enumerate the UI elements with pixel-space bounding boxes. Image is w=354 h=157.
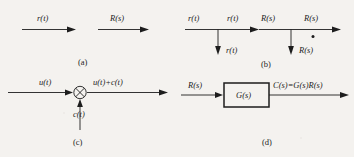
panel-d-label-input: R(s) — [188, 81, 202, 90]
arrowhead-b-right-branch — [288, 46, 294, 55]
panel-c-label-input: u(t) — [39, 78, 51, 87]
panel-c: u(t) u(t)+c(t) c(t) (c) — [0, 78, 177, 157]
panel-b-left-label-input: r(t) — [188, 14, 199, 23]
arrowhead-c-output — [159, 90, 168, 96]
arrowhead-rt — [67, 27, 76, 33]
arrowhead-c-input — [65, 90, 73, 96]
arrowhead-b-left-through — [250, 27, 259, 33]
panel-a-label-rs: R(s) — [110, 14, 124, 23]
panel-b-right-label-input: R(s) — [261, 14, 275, 23]
panel-c-label-summing-input: c(t) — [73, 110, 85, 119]
panel-c-label-output: u(t)+c(t) — [93, 78, 123, 87]
panel-d-label-output: C(s)=G(s)R(s) — [273, 81, 323, 90]
panel-a-label-rt: r(t) — [37, 14, 48, 23]
panel-c-graphics — [0, 78, 177, 157]
panel-a-graphics — [0, 0, 177, 78]
arrowhead-b-left-branch — [215, 46, 221, 55]
arrowhead-c-feedback — [77, 99, 83, 107]
panel-a-caption: (a) — [78, 58, 87, 67]
arrowhead-d-input — [215, 92, 223, 98]
arrowhead-b-right-through — [332, 27, 341, 33]
panel-c-caption: (c) — [73, 138, 82, 147]
panel-b: r(t) r(t) r(t) R(s) R(s) R(s) (b) — [177, 0, 354, 78]
panel-b-caption: (b) — [261, 60, 271, 69]
panel-d-block-label: G(s) — [236, 91, 251, 100]
panel-b-left-label-through: r(t) — [227, 14, 238, 23]
panel-d: R(s) G(s) C(s)=G(s)R(s) (d) — [177, 78, 354, 157]
panel-d-caption: (d) — [262, 138, 272, 147]
block-diagram-figure: r(t) R(s) (a) r(t) r(t) r(t) R(s) R(s) R… — [0, 0, 354, 157]
panel-b-right-label-through: R(s) — [304, 14, 318, 23]
panel-a: r(t) R(s) (a) — [0, 0, 177, 78]
branch-point-dot-icon — [312, 35, 315, 38]
panel-b-left-label-branch: r(t) — [226, 46, 237, 55]
arrowhead-d-output — [340, 92, 349, 98]
arrowhead-rs — [140, 27, 149, 33]
panel-b-right-label-branch: R(s) — [299, 46, 313, 55]
